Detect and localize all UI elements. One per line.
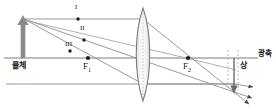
ray-2-label: II: [80, 25, 85, 32]
auxiliary-ray: [24, 20, 236, 70]
ray-diagram-figure: I II III 물체 F1 F2 상 광축: [0, 0, 276, 112]
focal-point-1-subscript: 1: [88, 67, 91, 73]
optical-axis-label: 광축: [258, 50, 272, 58]
diagram-canvas: [0, 0, 276, 112]
focal-point-2-subscript: 2: [188, 67, 191, 73]
image-label: 상: [240, 62, 247, 70]
image-arrow: [230, 58, 237, 94]
object-arrow: [17, 15, 28, 58]
ray-3-marker-dot: [68, 49, 71, 52]
ray-2-marker-dot: [82, 38, 85, 41]
focal-point-1-label: F1: [83, 62, 91, 73]
ray-3-label: III: [65, 41, 72, 48]
focal-point-1-dot: [86, 56, 90, 60]
focal-point-2-dot: [186, 56, 190, 60]
ray-1-label: I: [75, 4, 77, 11]
focal-point-2-label: F2: [183, 62, 191, 73]
convex-lens: [136, 8, 150, 101]
object-label: 물체: [12, 62, 26, 70]
ray-1-marker-dot: [76, 17, 79, 20]
